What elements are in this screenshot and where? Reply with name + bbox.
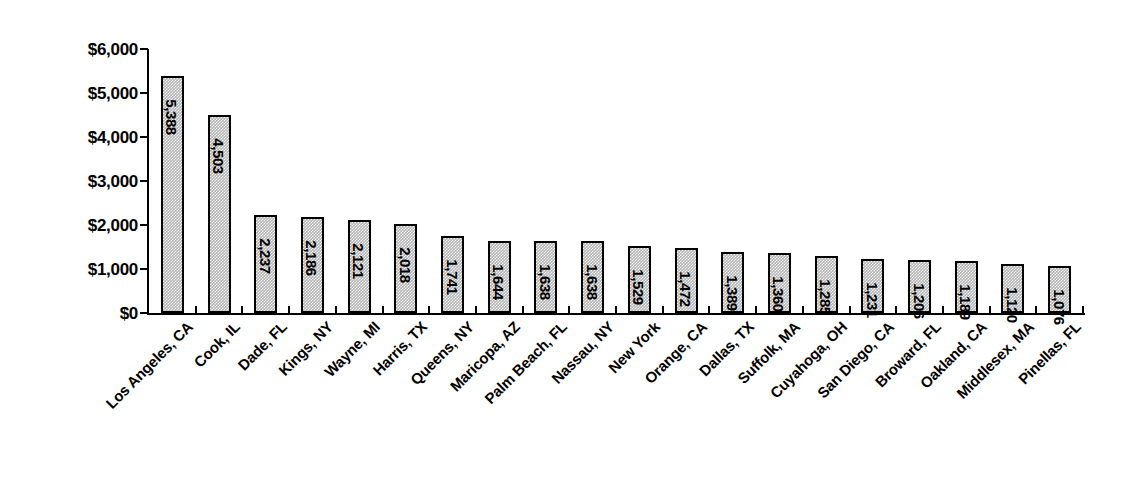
x-axis-tick-mark <box>288 306 290 314</box>
x-axis-tick-mark <box>942 306 944 314</box>
bar[interactable]: 5,388 <box>161 76 184 313</box>
x-axis-tick-mark <box>755 306 757 314</box>
x-axis-category-label-text: Palm Beach, FL <box>481 318 570 407</box>
x-axis-tick-mark <box>708 306 710 314</box>
bar-chart: $6,000$5,000$4,000$3,000$2,000$1,000$0 5… <box>0 0 1121 488</box>
x-axis-tick-mark <box>335 306 337 314</box>
y-axis-tick-label: $4,000 <box>40 129 138 146</box>
x-axis-tick-mark <box>849 306 851 314</box>
y-axis-tick-label: $5,000 <box>40 85 138 102</box>
bar-value-label: 1,285 <box>809 244 826 280</box>
bar-value-label: 1,638 <box>529 228 546 264</box>
y-axis-tick-mark <box>140 48 148 50</box>
y-axis-tick-label: $2,000 <box>40 217 138 234</box>
y-axis-tick-mark <box>140 268 148 270</box>
y-axis-tick-label: $1,000 <box>40 261 138 278</box>
y-axis-labels: $6,000$5,000$4,000$3,000$2,000$1,000$0 <box>40 0 138 488</box>
x-axis-tick-mark <box>1035 306 1037 314</box>
y-axis-tick-mark <box>140 136 148 138</box>
bar-value-label: 2,237 <box>249 202 266 238</box>
bar-value-label: 1,231 <box>856 246 873 282</box>
x-axis-tick-mark <box>195 306 197 314</box>
x-axis-tick-mark <box>1082 306 1084 314</box>
x-axis-category-labels: Los Angeles, CACook, ILDade, FLKings, NY… <box>149 318 1083 488</box>
bar-value-text: 4,503 <box>210 138 227 174</box>
bar-value-text: 2,121 <box>350 243 367 279</box>
y-axis-tick-mark <box>140 224 148 226</box>
x-axis-tick-mark <box>662 306 664 314</box>
bar-value-label: 2,186 <box>295 204 312 240</box>
bar-value-label: 1,741 <box>436 224 453 260</box>
y-axis-tick-label: $0 <box>40 305 138 322</box>
x-axis-tick-mark <box>615 306 617 314</box>
bar-value-label: 1,644 <box>482 228 499 264</box>
y-axis-tick-mark <box>140 312 148 314</box>
bar-value-text: 2,186 <box>303 240 320 276</box>
x-axis-tick-mark <box>989 306 991 314</box>
x-axis-tick-mark <box>382 306 384 314</box>
x-axis-tick-mark <box>568 306 570 314</box>
bar-value-label: 2,018 <box>389 211 406 247</box>
x-axis-tick-mark <box>522 306 524 314</box>
y-axis-tick-label: $6,000 <box>40 41 138 58</box>
bar-value-text: 5,388 <box>163 99 180 135</box>
bar-value-label: 4,503 <box>202 102 219 138</box>
bar-value-label: 5,388 <box>155 63 172 99</box>
x-axis-tick-mark <box>895 306 897 314</box>
x-axis-tick-mark <box>241 306 243 314</box>
x-axis-tick-mark <box>428 306 430 314</box>
x-axis-tick-mark <box>475 306 477 314</box>
y-axis-tick-mark <box>140 92 148 94</box>
bar-value-label: 2,121 <box>342 207 359 243</box>
x-axis-tick-mark <box>802 306 804 314</box>
bar-value-label: 1,389 <box>716 239 733 275</box>
bar-value-label: 1,472 <box>669 235 686 271</box>
y-axis-tick-label: $3,000 <box>40 173 138 190</box>
y-axis-tick-mark <box>140 180 148 182</box>
